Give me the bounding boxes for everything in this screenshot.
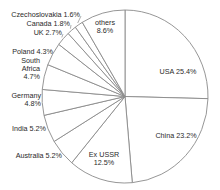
slice-label-australia: Australia 5.2% [16, 151, 63, 160]
slice-label-czechoslovakia: Czechoslovakia 1.6% [11, 10, 80, 19]
slice-label-line: Canada 1.8% [26, 19, 70, 28]
leader-line-canada [70, 25, 71, 29]
slice-label-line: Australia 5.2% [16, 151, 63, 160]
slice-label-line: Czechoslovakia 1.6% [11, 10, 80, 19]
pie-slice-usa [125, 10, 208, 99]
slice-label-others: others8.6% [95, 18, 115, 35]
slice-label-uk: UK 2.7% [34, 28, 63, 37]
slice-label-usa: USA 25.4% [160, 67, 197, 76]
slice-label-line: USA 25.4% [160, 67, 197, 76]
slice-label-line: 8.6% [97, 26, 114, 35]
slice-label-line: 12.5% [94, 158, 115, 167]
slice-label-line: 4.7% [24, 72, 41, 81]
slice-label-line: UK 2.7% [34, 28, 63, 37]
slice-label-line: China 23.2% [155, 131, 197, 140]
slice-label-line: 4.8% [25, 99, 42, 108]
slice-label-canada: Canada 1.8% [26, 19, 70, 28]
slice-label-india: India 5.2% [12, 124, 47, 133]
slice-label-line: India 5.2% [12, 124, 47, 133]
pie-chart: USA 25.4%China 23.2%Ex USSR12.5%Australi… [0, 0, 220, 190]
slice-label-germany: Germany4.8% [11, 91, 41, 108]
slice-label-poland: Poland 4.3% [12, 47, 53, 56]
slice-label-china: China 23.2% [155, 131, 197, 140]
slice-label-line: Poland 4.3% [12, 47, 53, 56]
slice-label-south-africa: SouthAfrica4.7% [21, 56, 40, 81]
